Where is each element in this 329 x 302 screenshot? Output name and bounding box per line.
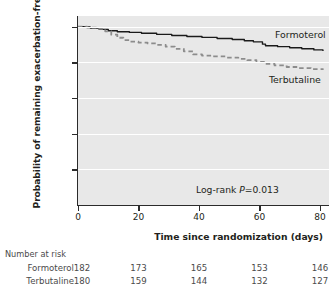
x-axis-line — [77, 205, 329, 206]
y-tick — [72, 134, 77, 135]
gridline — [78, 98, 329, 99]
x-tick-label: 40 — [179, 212, 219, 222]
logrank-value: =0.013 — [245, 184, 279, 195]
risk-row-value: 180 — [65, 276, 99, 286]
risk-table-row: Formoterol182173165153146 — [0, 263, 329, 275]
x-tick — [78, 206, 79, 211]
logrank-prefix: Log-rank — [196, 184, 239, 195]
risk-row-value: 153 — [242, 263, 276, 273]
x-tick-label: 20 — [118, 212, 158, 222]
y-tick — [72, 27, 77, 28]
x-tick-label: 80 — [300, 212, 329, 222]
series-label-terbutaline: Terbutaline — [269, 74, 321, 85]
x-tick — [259, 206, 260, 211]
risk-table-title: Number at risk — [5, 249, 66, 259]
risk-row-label: Terbutaline — [0, 276, 74, 286]
risk-row-value: 146 — [303, 263, 329, 273]
x-tick — [138, 206, 139, 211]
x-tick-label: 0 — [58, 212, 98, 222]
risk-table-row: Terbutaline180159144132127 — [0, 276, 329, 288]
series-label-formoterol: Formoterol — [275, 29, 326, 40]
x-axis-title: Time since randomization (days) — [0, 231, 329, 242]
gridline — [78, 169, 329, 170]
gridline — [78, 62, 329, 63]
kaplan-meier-figure: Probability of remaining exacerbation-fr… — [0, 0, 329, 302]
x-tick — [199, 206, 200, 211]
y-tick — [72, 62, 77, 63]
risk-row-value: 159 — [121, 276, 155, 286]
risk-row-value: 127 — [303, 276, 329, 286]
y-axis-line — [77, 16, 78, 206]
gridline — [78, 27, 329, 28]
y-tick — [72, 98, 77, 99]
y-tick — [72, 169, 77, 170]
risk-row-label: Formoterol — [0, 263, 74, 273]
x-tick — [320, 206, 321, 211]
risk-row-value: 165 — [182, 263, 216, 273]
survival-curves — [78, 16, 329, 205]
gridline — [78, 134, 329, 135]
plot-area — [78, 16, 329, 205]
y-axis-title: Probability of remaining exacerbation-fr… — [31, 13, 42, 209]
x-tick-label: 60 — [239, 212, 279, 222]
risk-row-value: 132 — [242, 276, 276, 286]
risk-row-value: 144 — [182, 276, 216, 286]
risk-row-value: 173 — [121, 263, 155, 273]
risk-row-value: 182 — [65, 263, 99, 273]
logrank-annotation: Log-rank P=0.013 — [196, 184, 279, 195]
